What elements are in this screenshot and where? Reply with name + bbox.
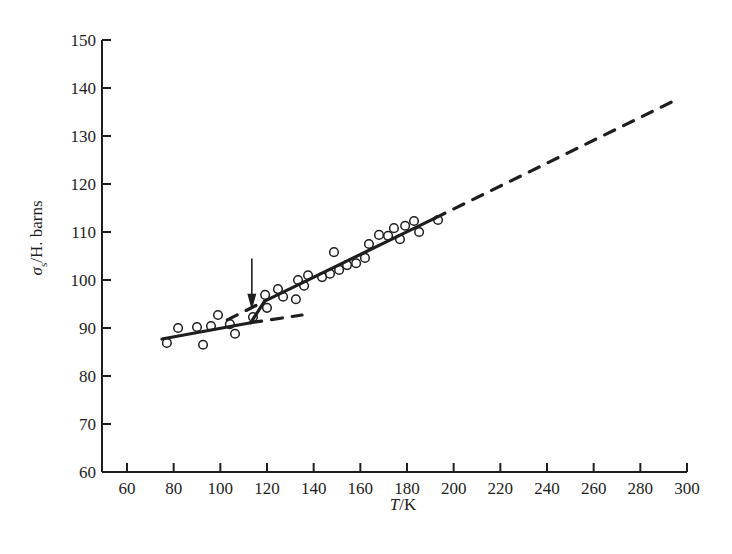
- data-point: [375, 231, 384, 240]
- data-point: [214, 311, 223, 320]
- svg-text:σs/H. barns: σs/H. barns: [27, 201, 49, 276]
- chart: 60708090100110120130140150 6080100120140…: [0, 0, 732, 554]
- y-tick-label: 70: [79, 415, 96, 434]
- y-tick-label: 120: [71, 175, 97, 194]
- x-axis-label: T/K: [390, 495, 417, 514]
- svg-text:T/K: T/K: [390, 495, 417, 514]
- y-ticks: 60708090100110120130140150: [71, 31, 112, 482]
- x-tick-label: 240: [534, 479, 560, 498]
- x-axis-label-unit: /K: [399, 495, 417, 514]
- transition-arrow-icon: [247, 258, 256, 309]
- data-point: [390, 224, 399, 233]
- data-point: [330, 248, 339, 257]
- x-tick-label: 200: [441, 479, 467, 498]
- plot-area: [162, 99, 678, 349]
- solid-fit-line: [265, 218, 435, 301]
- x-tick-label: 60: [119, 479, 136, 498]
- x-tick-label: 100: [208, 479, 234, 498]
- y-tick-label: 110: [71, 223, 96, 242]
- axes: 60708090100110120130140150 6080100120140…: [71, 31, 700, 498]
- x-tick-label: 140: [301, 479, 327, 498]
- x-tick-label: 260: [581, 479, 607, 498]
- y-tick-label: 150: [71, 31, 97, 50]
- x-tick-label: 280: [628, 479, 654, 498]
- y-axis-label: σs/H. barns: [27, 201, 49, 276]
- x-tick-label: 300: [674, 479, 700, 498]
- x-ticks: 6080100120140160180200220240260280300: [119, 463, 700, 498]
- y-tick-label: 60: [79, 463, 96, 482]
- x-tick-label: 80: [165, 479, 182, 498]
- data-point: [365, 240, 374, 249]
- data-point: [193, 323, 202, 332]
- data-point: [292, 295, 301, 304]
- y-tick-label: 80: [79, 367, 96, 386]
- data-point: [231, 329, 240, 338]
- data-point: [352, 259, 361, 268]
- x-tick-label: 220: [488, 479, 514, 498]
- y-tick-label: 100: [71, 271, 97, 290]
- y-tick-label: 90: [79, 319, 96, 338]
- dashed-fit-line: [435, 99, 678, 218]
- data-point: [199, 341, 208, 350]
- data-point: [174, 324, 183, 333]
- y-axis-label-unit: /H. barns: [27, 201, 46, 263]
- y-tick-label: 140: [71, 79, 97, 98]
- dashed-fit-line: [251, 315, 302, 323]
- y-tick-label: 130: [71, 127, 97, 146]
- x-tick-label: 120: [254, 479, 280, 498]
- data-point: [401, 221, 410, 230]
- data-point: [410, 217, 419, 226]
- x-tick-label: 160: [348, 479, 374, 498]
